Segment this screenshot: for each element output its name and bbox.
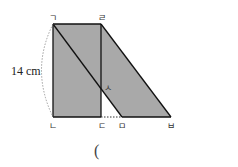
label-g: ㄱ bbox=[49, 13, 57, 23]
label-n: ㄴ bbox=[49, 121, 57, 131]
label-s: ㅅ bbox=[104, 83, 112, 93]
height-dimension: 14 cm bbox=[11, 64, 41, 78]
dimension-arc bbox=[42, 24, 54, 117]
label-r: ㄹ bbox=[98, 13, 106, 23]
answer-paren: ( bbox=[94, 142, 99, 160]
label-d: ㄷ bbox=[98, 121, 106, 131]
label-b: ㅂ bbox=[167, 121, 175, 131]
geometry-figure: ㄱ ㄹ ㄴ ㄷ ㅁ ㅂ ㅅ 14 cm ( bbox=[0, 0, 238, 167]
label-m: ㅁ bbox=[118, 121, 126, 131]
